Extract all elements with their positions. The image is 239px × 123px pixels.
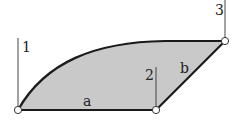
node-a — [14, 106, 21, 113]
edge-label-a: a — [83, 93, 91, 109]
vertical-label-1: 1 — [22, 39, 31, 55]
edge-label-b: b — [180, 60, 189, 76]
flow-region-diagram: 1 2 3 a b — [0, 0, 239, 123]
vertical-label-2: 2 — [145, 67, 154, 83]
vertical-label-3: 3 — [215, 2, 224, 18]
node-b — [152, 106, 159, 113]
shaded-region — [18, 41, 225, 110]
node-c — [221, 37, 228, 44]
